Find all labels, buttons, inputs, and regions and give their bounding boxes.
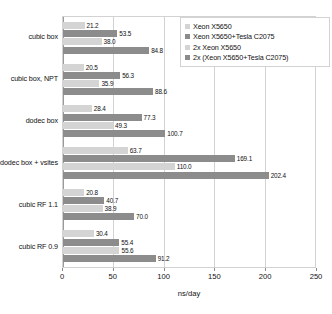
legend-swatch-icon <box>185 24 190 29</box>
axis-tick-mark <box>214 268 215 271</box>
bar-row: 35.9 <box>63 80 315 87</box>
bar-row: 77.3 <box>63 114 315 121</box>
bar-value-label: 53.5 <box>119 30 131 37</box>
bar-value-label: 55.4 <box>121 239 133 246</box>
bar-row: 169.1 <box>63 155 315 162</box>
bar-value-label: 84.8 <box>151 47 163 54</box>
bar <box>63 38 102 45</box>
bar <box>63 72 120 79</box>
bar <box>63 213 134 220</box>
category-label: dodec box + vsites <box>0 142 62 184</box>
bar <box>63 155 235 162</box>
bar-value-label: 40.7 <box>106 197 118 204</box>
bar-value-label: 21.2 <box>87 22 99 29</box>
axis-tick-mark <box>265 268 266 271</box>
category-label: cubic RF 0.9 <box>0 226 62 268</box>
bar-group: 20.840.738.970.0 <box>63 184 315 226</box>
category-axis: cubic boxcubic box, NPTdodec boxdodec bo… <box>0 16 62 268</box>
bar-group: 28.477.349.3100.7 <box>63 100 315 142</box>
axis-tick-mark <box>113 268 114 271</box>
bar-row: 100.7 <box>63 130 315 137</box>
axis-tick-label: 250 <box>310 272 323 281</box>
bar <box>63 47 149 54</box>
category-label: dodec box <box>0 100 62 142</box>
axis-tick-label: 0 <box>60 272 64 281</box>
bar-row: 49.3 <box>63 122 315 129</box>
bar <box>63 22 85 29</box>
bar <box>63 80 99 87</box>
legend-item[interactable]: Xeon X5650 <box>185 21 327 32</box>
legend-label: Xeon X5650 <box>193 22 232 31</box>
axis-tick-mark <box>164 268 165 271</box>
bar <box>63 64 84 71</box>
bar-value-label: 49.3 <box>115 122 127 129</box>
chart-legend: Xeon X5650Xeon X5650+Tesla C20752x Xeon … <box>180 17 330 67</box>
bar <box>63 30 117 37</box>
bar-group: 63.7169.1110.0202.4 <box>63 142 315 184</box>
bar-row: 38.9 <box>63 205 315 212</box>
legend-item[interactable]: 2x (Xeon X5650+Tesla C2075) <box>185 53 327 64</box>
bar-row: 20.8 <box>63 189 315 196</box>
bar-value-label: 28.4 <box>94 105 106 112</box>
bar-value-label: 20.8 <box>86 189 98 196</box>
bar <box>63 189 84 196</box>
category-label: cubic box <box>0 16 62 58</box>
bar-value-label: 77.3 <box>144 114 156 121</box>
bar-row: 70.0 <box>63 213 315 220</box>
legend-item[interactable]: Xeon X5650+Tesla C2075 <box>185 32 327 43</box>
bar <box>63 197 104 204</box>
category-label: cubic RF 1.1 <box>0 184 62 226</box>
bar <box>63 230 94 237</box>
bar-value-label: 88.6 <box>155 88 167 95</box>
bar-row: 40.7 <box>63 197 315 204</box>
bar <box>63 205 103 212</box>
bar-value-label: 70.0 <box>136 213 148 220</box>
bar-value-label: 91.2 <box>158 255 170 262</box>
bar-value-label: 100.7 <box>167 130 182 137</box>
bar <box>63 88 153 95</box>
axis-tick-label: 50 <box>109 272 117 281</box>
bar <box>63 163 175 170</box>
bar-row: 88.6 <box>63 88 315 95</box>
legend-label: 2x Xeon X5650 <box>193 43 241 52</box>
axis-tick-label: 100 <box>157 272 170 281</box>
axis-tick-label: 150 <box>208 272 221 281</box>
legend-item[interactable]: 2x Xeon X5650 <box>185 42 327 53</box>
value-axis: 050100150200250 <box>62 268 316 282</box>
bar <box>63 239 119 246</box>
bar <box>63 105 92 112</box>
legend-swatch-icon <box>185 45 190 50</box>
bar-row: 110.0 <box>63 163 315 170</box>
bar-value-label: 20.5 <box>86 64 98 71</box>
bar <box>63 130 165 137</box>
legend-swatch-icon <box>185 55 190 60</box>
bar-chart-figure: cubic boxcubic box, NPTdodec boxdodec bo… <box>0 0 332 314</box>
bar-row: 55.6 <box>63 247 315 254</box>
bar <box>63 114 142 121</box>
axis-tick-label: 200 <box>259 272 272 281</box>
bar-row: 30.4 <box>63 230 315 237</box>
bar-value-label: 56.3 <box>122 72 134 79</box>
bar-value-label: 38.9 <box>105 205 117 212</box>
bar <box>63 122 113 129</box>
bar-row: 202.4 <box>63 172 315 179</box>
legend-label: Xeon X5650+Tesla C2075 <box>193 32 275 41</box>
bar-value-label: 30.4 <box>96 230 108 237</box>
legend-label: 2x (Xeon X5650+Tesla C2075) <box>193 53 288 62</box>
x-axis-title: ns/day <box>62 289 316 298</box>
bar-row: 63.7 <box>63 147 315 154</box>
bar <box>63 172 269 179</box>
bar-row: 28.4 <box>63 105 315 112</box>
bar-value-label: 38.0 <box>104 38 116 45</box>
legend-swatch-icon <box>185 34 190 39</box>
category-label: cubic box, NPT <box>0 58 62 100</box>
bar <box>63 247 119 254</box>
bar-row: 91.2 <box>63 255 315 262</box>
bar-group: 30.455.455.691.2 <box>63 225 315 267</box>
bar <box>63 255 156 262</box>
bar-row: 55.4 <box>63 239 315 246</box>
bar-value-label: 35.9 <box>101 80 113 87</box>
bar-value-label: 202.4 <box>271 172 286 179</box>
axis-tick-mark <box>62 268 63 271</box>
bar <box>63 147 128 154</box>
